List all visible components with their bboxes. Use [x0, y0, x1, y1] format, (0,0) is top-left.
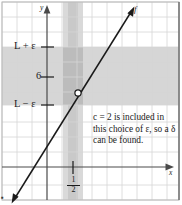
corner-mark: ▪ — [1, 193, 4, 202]
ytick-label-middle: 6 — [36, 71, 41, 82]
y-axis-label: y — [40, 4, 43, 12]
ytick-label-lower-band: L − ε — [14, 99, 36, 110]
x-axis-label: x — [169, 169, 172, 177]
fraction-numerator: 1 — [67, 176, 80, 184]
open-circle-point — [75, 90, 81, 96]
figure-caption: c = 2 is included in this choice of ε, s… — [93, 112, 177, 147]
fraction-denominator: 2 — [67, 186, 80, 194]
function-label-f: f — [134, 5, 137, 14]
ytick-label-upper-band: L + ε — [14, 41, 36, 52]
xtick-label-one-half: 1 2 — [67, 176, 80, 194]
epsilon-delta-limit-figure: L + ε 6 L − ε 1 2 y x f c = 2 is include… — [0, 0, 182, 205]
